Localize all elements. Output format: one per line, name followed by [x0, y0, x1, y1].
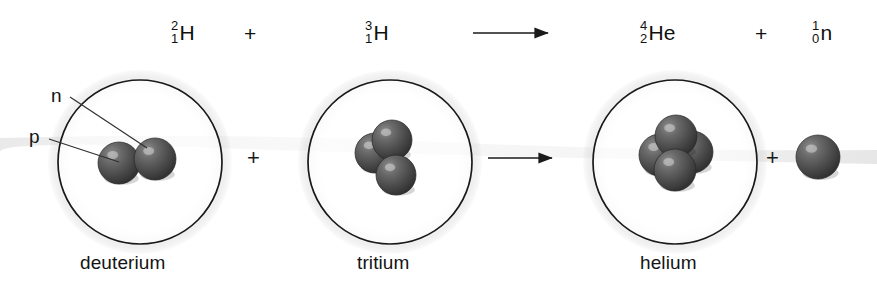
atomic-number: 0: [812, 32, 819, 45]
neutron-nuclide: 10n: [812, 20, 832, 47]
atomic-number: 1: [365, 32, 372, 45]
plus-lower-2: +: [766, 147, 779, 169]
isotope-numbers: 42: [640, 19, 647, 46]
neutron-callout-label: n: [51, 85, 62, 107]
tritium-atom-caption: tritium: [357, 252, 409, 274]
plus-lower-1: +: [247, 147, 260, 169]
helium-nuclide: 42He: [640, 20, 676, 47]
nucleon-sphere: [376, 155, 416, 195]
deuterium-atom-caption: deuterium: [80, 252, 165, 274]
tritium-nuclide: 31H: [365, 20, 389, 47]
nucleon-sphere: [372, 120, 412, 160]
element-symbol: He: [648, 21, 675, 45]
atomic-number: 1: [171, 32, 178, 45]
deuterium-nuclide: 21H: [171, 20, 195, 47]
helium-atom: [583, 70, 767, 254]
diagram-canvas: [0, 0, 877, 287]
sphere-highlight: [143, 147, 154, 155]
element-symbol: n: [820, 21, 832, 45]
deuterium-atom: [48, 70, 232, 254]
isotope-numbers: 10: [812, 19, 819, 46]
sphere-highlight: [107, 151, 118, 159]
sphere-highlight: [381, 129, 391, 137]
mass-number: 1: [812, 19, 819, 32]
fusion-diagram: 21H+31H42He+10n++deuteriumtritiumheliumn…: [0, 0, 877, 287]
free-neutron: [796, 135, 840, 180]
neutron-sphere: [134, 138, 176, 180]
proton-sphere: [98, 142, 140, 184]
sphere-highlight: [385, 164, 395, 172]
isotope-numbers: 21: [171, 19, 178, 46]
plus-1: +: [244, 22, 256, 46]
isotope-numbers: 31: [365, 19, 372, 46]
plus-2: +: [755, 22, 767, 46]
helium-atom-caption: helium: [640, 252, 697, 274]
atoms-layer: [48, 70, 840, 254]
sphere-highlight: [664, 124, 675, 132]
arrows-layer: [473, 33, 552, 158]
mass-number: 3: [365, 19, 372, 32]
mass-number: 4: [640, 19, 647, 32]
element-symbol: H: [373, 21, 388, 45]
atomic-number: 2: [640, 32, 647, 45]
sphere-highlight: [663, 158, 674, 166]
tritium-atom: [298, 70, 482, 254]
mass-number: 2: [171, 19, 178, 32]
element-symbol: H: [179, 21, 194, 45]
proton-callout-label: p: [29, 126, 40, 148]
sphere-highlight: [806, 144, 817, 152]
nucleon-sphere: [654, 149, 696, 191]
free-neutron-sphere: [796, 135, 840, 179]
